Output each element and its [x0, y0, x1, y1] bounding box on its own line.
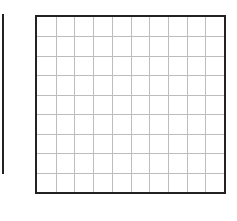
grid-lines: [37, 17, 224, 192]
grid-box: [35, 15, 226, 194]
vertical-line: [2, 14, 4, 174]
